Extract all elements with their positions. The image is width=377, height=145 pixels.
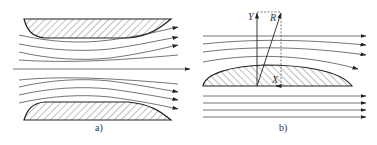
caption-b: b) xyxy=(279,122,287,134)
label-x: X xyxy=(271,74,279,85)
panel-a: a) xyxy=(13,19,190,134)
label-r: R xyxy=(269,12,276,23)
lower-straight-streamlines xyxy=(203,96,366,117)
caption-a: a) xyxy=(95,122,103,134)
bottom-body xyxy=(24,102,171,120)
upper-curved-streamlines xyxy=(203,40,366,69)
top-body xyxy=(24,19,171,38)
panel-b: Y R X b) xyxy=(203,11,366,134)
label-y: Y xyxy=(248,11,255,22)
diagram-canvas: a) Y R X b) xyxy=(0,0,377,145)
